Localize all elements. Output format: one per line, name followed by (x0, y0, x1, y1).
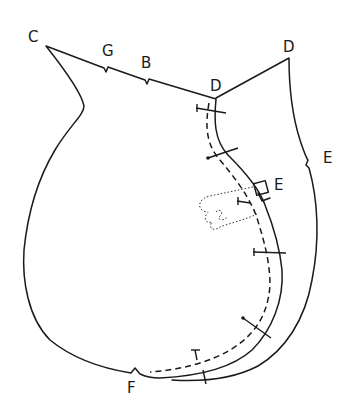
label-e-outer: E (323, 149, 332, 167)
pin-4 (253, 248, 286, 256)
label-d-left: D (210, 77, 222, 95)
pin-5 (241, 316, 271, 338)
label-d-right: D (283, 38, 295, 56)
pin-2 (206, 148, 238, 160)
sewing-pattern-diagram: C G B D D E E F (0, 0, 351, 409)
pin-1 (196, 104, 226, 113)
label-g: G (102, 42, 114, 60)
pin-7-t-mark (191, 350, 200, 360)
label-f: F (127, 379, 136, 397)
pocket-dotted-curl (216, 210, 228, 219)
main-pattern-piece-outline (24, 46, 283, 378)
label-c: C (28, 28, 38, 46)
label-b: B (141, 54, 151, 72)
seam-line-dashed (150, 103, 270, 372)
pocket-dotted-outline (200, 187, 257, 229)
pin-3 (237, 197, 250, 205)
label-e-inner: E (274, 176, 283, 194)
right-pattern-piece-outline (172, 58, 317, 380)
